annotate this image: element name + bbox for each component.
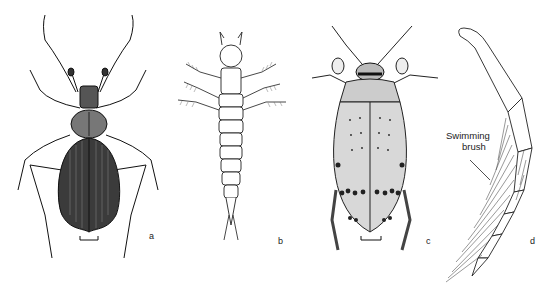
panel-b-larva: b [170, 0, 300, 286]
panel-a-beetle: a [0, 0, 180, 286]
annotation-line1: Swimming [446, 130, 490, 141]
swimming-brush-label: Swimming brush [446, 130, 490, 152]
annotation-line2: brush [446, 141, 490, 152]
panel-label-d: d [530, 236, 535, 246]
panel-label-b: b [278, 236, 283, 246]
panel-d-leg: Swimming brush d [420, 0, 553, 286]
beetle-a-illustration [0, 0, 180, 286]
panel-label-a: a [149, 231, 154, 241]
